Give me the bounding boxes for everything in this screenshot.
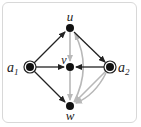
edge-a1-w <box>34 71 65 102</box>
edge-u-a2 <box>74 32 105 62</box>
node-v <box>66 63 74 71</box>
node-a2 <box>104 61 116 73</box>
label-v: v <box>61 53 67 67</box>
edge-w-u-curve <box>74 34 83 102</box>
label-w: w <box>66 108 75 123</box>
node-u <box>66 24 74 32</box>
label-a2: a2 <box>118 60 130 77</box>
label-u: u <box>67 9 74 24</box>
node-a1 <box>24 61 36 73</box>
directed-graph: u v w a1 a2 <box>0 0 141 127</box>
label-a1: a1 <box>7 60 19 77</box>
